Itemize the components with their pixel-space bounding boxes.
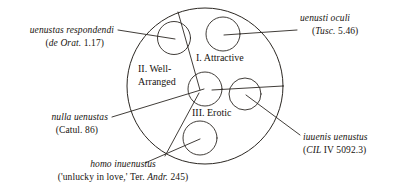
diagram-figure: I. Attractive II. Well- Arranged III. Er…: [0, 0, 394, 195]
callout-citation-uenusti-oculi: (Tusc. 5.46): [300, 25, 392, 38]
callout-citation-iuuenis-uenustus: (CIL IV 5092.3): [303, 144, 393, 157]
zone-label-i: I. Attractive: [196, 52, 244, 65]
divider-right: [212, 86, 283, 90]
zone-ii-line-1: II. Well-: [138, 62, 176, 75]
callout-citation-nulla-uenustas: (Catul. 86): [12, 124, 108, 137]
small-circle-bottom: [183, 121, 217, 155]
callout-uenustas-respondendi: uenustas respondendi (de Orat. 1.17): [6, 24, 114, 49]
zone-ii-line-2: Arranged: [138, 75, 176, 88]
callout-term-uenusti-oculi: uenusti oculi: [300, 12, 392, 25]
callout-citation-uenustas-respondendi: (de Orat. 1.17): [6, 37, 114, 50]
callout-nulla-uenustas: nulla uenustas (Catul. 86): [12, 111, 108, 136]
callout-term-nulla-uenustas: nulla uenustas: [12, 111, 108, 124]
callout-homo-inuenustus: homo inuenustus ('unlucky in love,' Ter.…: [18, 158, 228, 183]
callout-citation-homo-inuenustus: ('unlucky in love,' Ter. Andr. 245): [18, 171, 228, 184]
zone-i-line-1: I. Attractive: [196, 52, 244, 63]
small-circle-right: [229, 78, 261, 110]
small-circle-center: [188, 72, 222, 106]
callout-term-uenustas-respondendi: uenustas respondendi: [6, 24, 114, 37]
zone-label-ii: II. Well- Arranged: [138, 62, 176, 88]
zone-iii-line-1: III. Erotic: [192, 107, 231, 118]
callout-term-homo-inuenustus: homo inuenustus: [18, 158, 228, 171]
callout-term-iuuenis-uenustus: iuuenis uenustus: [303, 131, 393, 144]
callout-uenusti-oculi: uenusti oculi (Tusc. 5.46): [300, 12, 392, 37]
callout-iuuenis-uenustus: iuuenis uenustus (CIL IV 5092.3): [303, 131, 393, 156]
leader-uenustas-respondendi: [118, 30, 175, 39]
leader-nulla-uenustas: [112, 89, 204, 117]
zone-label-iii: III. Erotic: [192, 107, 231, 120]
leader-iuuenis-uenustus: [246, 95, 300, 135]
